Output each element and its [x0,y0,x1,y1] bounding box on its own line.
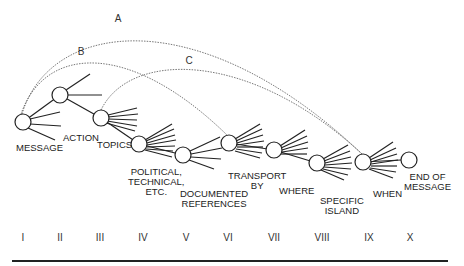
stage-x: X [407,232,414,243]
label-transport: TRANSPORT BY [228,171,286,191]
label-specific-island: SPECIFIC ISLAND [320,196,364,216]
branch-lines [23,74,401,180]
label-political: POLITICAL, TECHNICAL, ETC. [128,167,184,197]
stage-vi: VI [223,232,232,243]
curve-label-c: C [185,55,192,66]
node-topics [93,110,109,126]
node-action [52,87,68,103]
stage-vii: VII [268,232,280,243]
stage-ix: IX [364,232,373,243]
message-tree-diagram: A B C MESSAGE ACTION TOPICS POLITICAL, T… [0,0,464,266]
stage-viii: VIII [314,232,329,243]
label-where: WHERE [279,186,314,196]
stage-iv: IV [138,232,147,243]
node-transport [221,135,237,151]
label-topics: TOPICS [97,140,132,150]
node-when [355,154,371,170]
curve-label-b: B [78,46,85,57]
node-political [131,136,147,152]
label-documented: DOCUMENTED REFERENCES [180,189,248,209]
label-end-of-message: END OF MESSAGE [404,172,451,192]
label-message: MESSAGE [16,143,63,153]
node-documented [175,147,191,163]
node-end [401,152,417,168]
stage-i: I [22,232,25,243]
curve-label-a: A [115,13,122,24]
baseline-rule [12,260,448,262]
node-specific-island [309,155,325,171]
stage-v: V [183,232,190,243]
label-action: ACTION [63,133,99,143]
label-when: WHEN [373,189,402,199]
node-where [266,142,282,158]
stage-ii: II [57,232,63,243]
stage-iii: III [96,232,104,243]
node-message [15,114,31,130]
